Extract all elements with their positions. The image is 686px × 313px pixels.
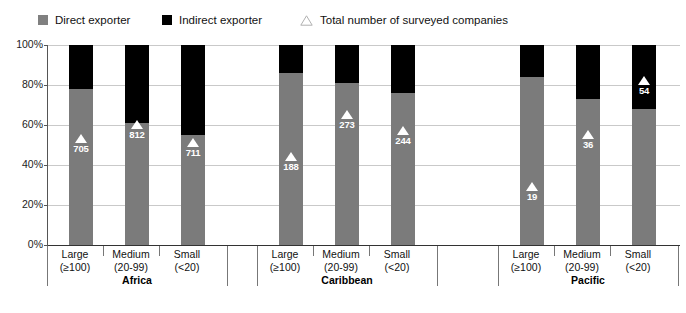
bar-stack [520, 45, 544, 245]
bar-stack [632, 45, 656, 245]
category-range-label: (20-99) [554, 261, 610, 274]
bar-stack [125, 45, 149, 245]
total-surveyed-marker: 705 [69, 134, 93, 154]
category-size-label: Large [62, 248, 89, 260]
total-surveyed-value: 188 [279, 162, 303, 172]
legend-label-indirect-exporter: Indirect exporter [179, 14, 262, 26]
category-range-label: (20-99) [103, 261, 159, 274]
group-label-caribbean: Caribbean [257, 274, 437, 286]
bar-segment-direct-exporter [391, 93, 415, 245]
group-label-africa: Africa [47, 274, 227, 286]
bar-segment-direct-exporter [125, 123, 149, 245]
category-range-label: (<20) [369, 261, 425, 274]
category-size-label: Large [272, 248, 299, 260]
bar-segment-direct-exporter [69, 89, 93, 245]
category-label: Small(<20) [610, 248, 666, 273]
category-range-label: (≥100) [47, 261, 103, 274]
y-tick-mark-80 [44, 85, 48, 86]
category-range-label: (≥100) [498, 261, 554, 274]
bar-segment-indirect-exporter [576, 45, 600, 99]
legend-label-direct-exporter: Direct exporter [55, 14, 130, 26]
bar-segment-direct-exporter [632, 109, 656, 245]
triangle-marker-icon [638, 76, 650, 85]
bar-segment-indirect-exporter [181, 45, 205, 135]
category-separator [369, 246, 370, 256]
triangle-marker-icon [75, 134, 87, 143]
category-range-label: (20-99) [313, 261, 369, 274]
y-tick-mark-20 [44, 205, 48, 206]
group-divider [678, 246, 679, 286]
category-size-label: Large [513, 248, 540, 260]
triangle-marker-icon [397, 126, 409, 135]
bar-segment-indirect-exporter [335, 45, 359, 83]
total-surveyed-value: 705 [69, 144, 93, 154]
y-axis-tick-label: 80% [3, 79, 43, 89]
category-label: Large(≥100) [47, 248, 103, 273]
category-size-label: Small [384, 248, 410, 260]
bar-segment-indirect-exporter [69, 45, 93, 89]
square-swatch-gray-icon [38, 15, 48, 25]
category-separator [610, 246, 611, 256]
category-label: Small(<20) [369, 248, 425, 273]
triangle-marker-icon [187, 138, 199, 147]
group-label-pacific: Pacific [498, 274, 678, 286]
total-surveyed-value: 244 [391, 136, 415, 146]
bar-segment-direct-exporter [335, 83, 359, 245]
category-separator [313, 246, 314, 256]
total-surveyed-marker: 812 [125, 120, 149, 140]
y-tick-mark-60 [44, 125, 48, 126]
total-surveyed-marker: 36 [576, 130, 600, 150]
total-surveyed-value: 19 [520, 192, 544, 202]
triangle-marker-icon [131, 120, 143, 129]
category-axis: Large(≥100)Medium(20-99)Small(<20)Africa… [47, 246, 679, 286]
category-size-label: Small [625, 248, 651, 260]
triangle-marker-icon [582, 130, 594, 139]
legend-item-direct-exporter: Direct exporter [38, 14, 130, 26]
category-label: Large(≥100) [498, 248, 554, 273]
category-label: Medium(20-99) [313, 248, 369, 273]
category-range-label: (<20) [610, 261, 666, 274]
category-size-label: Medium [112, 248, 149, 260]
category-range-label: (≥100) [257, 261, 313, 274]
y-axis-tick-label: 100% [3, 39, 43, 49]
legend-label-total-surveyed: Total number of surveyed companies [320, 14, 508, 26]
group-divider [437, 246, 438, 286]
triangle-outline-marker-icon [300, 15, 313, 26]
y-axis-tick-label: 40% [3, 159, 43, 169]
category-separator [159, 246, 160, 256]
bar-segment-indirect-exporter [520, 45, 544, 77]
category-size-label: Medium [563, 248, 600, 260]
bar-segment-indirect-exporter [279, 45, 303, 73]
category-label: Large(≥100) [257, 248, 313, 273]
total-surveyed-value: 812 [125, 130, 149, 140]
square-swatch-black-icon [162, 15, 172, 25]
triangle-marker-icon [526, 182, 538, 191]
category-size-label: Medium [322, 248, 359, 260]
category-separator [103, 246, 104, 256]
y-axis-tick-label: 20% [3, 199, 43, 209]
total-surveyed-value: 711 [181, 148, 205, 158]
y-axis-tick-label: 60% [3, 119, 43, 129]
total-surveyed-marker: 54 [632, 76, 656, 96]
category-size-label: Small [174, 248, 200, 260]
triangle-marker-icon [285, 152, 297, 161]
total-surveyed-value: 54 [632, 86, 656, 96]
bar-segment-indirect-exporter [391, 45, 415, 93]
y-tick-mark-100 [44, 45, 48, 46]
triangle-marker-icon [341, 110, 353, 119]
total-surveyed-marker: 273 [335, 110, 359, 130]
bar-segment-indirect-exporter [125, 45, 149, 123]
category-label: Small(<20) [159, 248, 215, 273]
category-separator [554, 246, 555, 256]
y-axis-tick-label: 0% [3, 239, 43, 249]
bar-stack [279, 45, 303, 245]
y-tick-mark-40 [44, 165, 48, 166]
total-surveyed-value: 273 [335, 120, 359, 130]
legend-item-indirect-exporter: Indirect exporter [162, 14, 262, 26]
total-surveyed-value: 36 [576, 140, 600, 150]
legend-item-total-surveyed: Total number of surveyed companies [300, 14, 508, 26]
total-surveyed-marker: 711 [181, 138, 205, 158]
chart-legend: Direct exporter Indirect exporter Total … [0, 14, 686, 34]
category-range-label: (<20) [159, 261, 215, 274]
group-divider [227, 246, 228, 286]
